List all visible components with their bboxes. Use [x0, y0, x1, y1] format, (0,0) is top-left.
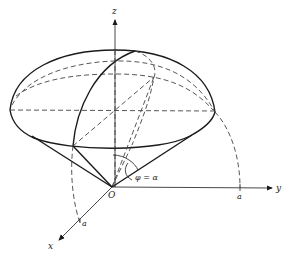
cone-base-rim — [10, 110, 215, 148]
parallel-dashed-1 — [12, 61, 215, 112]
y-axis — [112, 187, 272, 188]
x-axis — [59, 187, 112, 240]
y-axis-label: y — [275, 183, 282, 193]
parallel-dashed-2 — [16, 74, 213, 110]
great-circle-y — [215, 112, 240, 187]
interior-dashed-1 — [112, 77, 154, 187]
y-tick-label: a — [237, 192, 242, 201]
x-axis-label: x — [48, 241, 53, 251]
equator-dashed — [10, 110, 215, 111]
meridian-solid — [73, 51, 135, 146]
cone-ellipsoid-diagram: z y x O a a φ = α — [0, 0, 287, 255]
interior-dashed-2 — [73, 77, 154, 146]
meridian-dashed — [132, 51, 155, 145]
angle-label: φ = α — [135, 173, 158, 182]
z-axis-label: z — [111, 6, 117, 16]
x-tick-label: a — [82, 219, 87, 228]
ellipsoid-top-outline — [10, 50, 215, 112]
great-circle-x — [72, 146, 80, 223]
origin-label: O — [108, 190, 116, 200]
